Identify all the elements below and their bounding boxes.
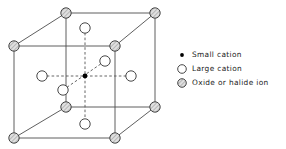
large-cation-back-face bbox=[100, 56, 110, 66]
corner-back-top-right-ion bbox=[150, 8, 160, 18]
small-filled-dot-icon bbox=[176, 49, 188, 61]
legend-label-small-cation: Small cation bbox=[192, 48, 242, 61]
legend-item-large-cation: Large cation bbox=[176, 62, 286, 75]
legend-label-large-cation: Large cation bbox=[192, 62, 242, 75]
corner-front-bottom-left-ion bbox=[9, 133, 19, 143]
large-cation-left-face bbox=[37, 71, 47, 81]
legend-label-oxide-halide-ion: Oxide or halide ion bbox=[192, 76, 269, 89]
large-cation-front-face bbox=[58, 85, 68, 95]
corner-front-top-left-ion bbox=[9, 41, 19, 51]
edge-depth-bottom-right bbox=[115, 107, 155, 138]
crystal-structure-figure: Small cation Large cation Oxide or halid… bbox=[0, 0, 286, 149]
legend-item-oxide-halide-ion: Oxide or halide ion bbox=[176, 76, 286, 89]
large-cation-bottom-face bbox=[80, 119, 90, 129]
edge-depth-bottom-left bbox=[14, 107, 66, 138]
small-cation-body-center bbox=[83, 74, 88, 79]
corner-back-bottom-right-ion bbox=[150, 102, 160, 112]
corner-back-bottom-left-ion bbox=[61, 102, 71, 112]
large-cation-top-face bbox=[80, 23, 90, 33]
corner-front-top-right-ion bbox=[110, 41, 120, 51]
large-cation-right-face bbox=[126, 71, 136, 81]
unit-cell-drawing bbox=[0, 0, 180, 149]
hatched-circle-icon bbox=[176, 77, 188, 89]
legend-item-small-cation: Small cation bbox=[176, 48, 286, 61]
edge-depth-top-right bbox=[115, 13, 155, 46]
corner-back-top-left-ion bbox=[61, 8, 71, 18]
corner-front-bottom-right-ion bbox=[110, 133, 120, 143]
legend: Small cation Large cation Oxide or halid… bbox=[176, 48, 286, 90]
large-open-circle-icon bbox=[176, 63, 188, 75]
edge-depth-top-left bbox=[14, 13, 66, 46]
